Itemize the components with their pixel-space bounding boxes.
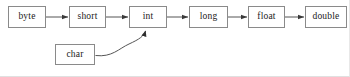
type-conversion-diagram: byte short int long float double char [0,0,350,77]
node-byte-label: byte [18,12,35,22]
node-float: float [248,6,285,28]
node-double: double [305,6,347,28]
node-short-label: short [78,12,98,22]
node-byte: byte [8,6,46,28]
node-double-label: double [312,12,339,22]
node-float-label: float [257,12,275,22]
node-char-label: char [66,49,83,59]
node-int-label: int [143,12,154,22]
diagram-connectors-layer [0,0,350,77]
node-char: char [55,44,95,65]
edge-char-to-int [96,31,146,56]
node-int: int [129,6,167,28]
node-long-label: long [200,12,218,22]
node-long: long [189,6,228,28]
node-short: short [69,6,106,28]
